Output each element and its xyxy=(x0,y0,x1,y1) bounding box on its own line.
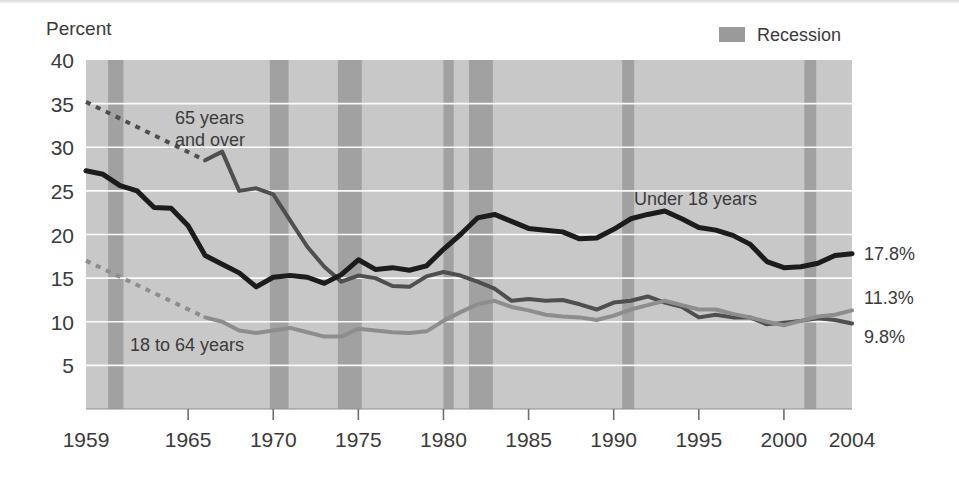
series-end-value-label: 11.3% xyxy=(864,288,914,308)
y-tick-label: 20 xyxy=(51,224,74,247)
x-tick-label: 1970 xyxy=(250,428,297,451)
y-tick-label: 15 xyxy=(51,267,74,290)
legend-label-recession: Recession xyxy=(757,25,841,45)
y-tick-label: 10 xyxy=(51,311,74,334)
y-tick-label: 40 xyxy=(51,49,74,72)
series-label-line: 65 years xyxy=(175,108,244,128)
series-label-line: Under 18 years xyxy=(634,189,757,209)
x-tick-label: 1995 xyxy=(675,428,722,451)
legend-swatch-recession xyxy=(719,27,745,42)
series-label-line: 18 to 64 years xyxy=(130,335,244,355)
x-tick-label: 1985 xyxy=(505,428,552,451)
series-end-value-label: 17.8% xyxy=(864,244,915,264)
y-tick-label: 35 xyxy=(51,93,74,116)
y-axis-title: Percent xyxy=(46,18,112,39)
y-tick-label: 30 xyxy=(51,136,74,159)
x-tick-label: 1990 xyxy=(590,428,637,451)
x-tick-label: 2004 xyxy=(829,428,876,451)
poverty-rate-chart: 510152025303540Percent65 yearsand overUn… xyxy=(0,0,959,480)
series-end-value-label: 9.8% xyxy=(864,327,905,347)
series-label-line: and over xyxy=(175,130,245,150)
x-tick-label: 1975 xyxy=(335,428,382,451)
series-label: 18 to 64 years xyxy=(130,335,244,355)
x-tick-label: 1980 xyxy=(420,428,467,451)
chart-canvas: 510152025303540Percent65 yearsand overUn… xyxy=(0,0,959,480)
y-tick-label: 25 xyxy=(51,180,74,203)
y-tick-label: 5 xyxy=(62,354,74,377)
x-tick-label: 1959 xyxy=(63,428,110,451)
series-label: Under 18 years xyxy=(634,189,757,209)
x-tick-label: 2000 xyxy=(761,428,808,451)
x-tick-label: 1965 xyxy=(165,428,212,451)
